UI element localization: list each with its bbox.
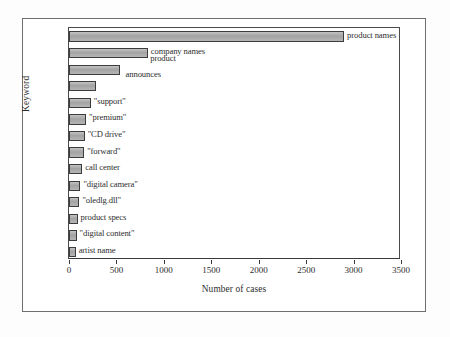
- bar-label: announces: [126, 69, 161, 80]
- plot-area: product namescompany namesproductannounc…: [68, 27, 400, 259]
- bar-label: "oledlg.dll": [82, 195, 121, 206]
- bar-label: product specs: [81, 212, 127, 223]
- bar-row: "forward": [69, 144, 401, 162]
- bar-row: product specs: [69, 210, 401, 228]
- bar: [69, 31, 344, 41]
- bar-label: artist name: [79, 245, 116, 256]
- x-tick: [69, 260, 70, 264]
- x-tick: [259, 260, 260, 264]
- bar-row: "CD drive": [69, 127, 401, 145]
- bar-label: "support": [94, 96, 126, 107]
- bar-row: "support": [69, 94, 401, 112]
- bar-chart-figure: product namescompany namesproductannounc…: [0, 0, 450, 337]
- x-axis-title: Number of cases: [68, 284, 400, 294]
- x-tick-label: 2500: [297, 265, 315, 275]
- x-tick: [211, 260, 212, 264]
- bar: [69, 247, 76, 257]
- x-tick-label: 3000: [345, 265, 363, 275]
- bar-row: product names: [69, 28, 401, 46]
- x-tick-label: 1500: [202, 265, 220, 275]
- x-tick-label: 1000: [155, 265, 173, 275]
- bar-row: "digital content": [69, 227, 401, 245]
- bar-label: product names: [347, 30, 396, 41]
- bar: [69, 197, 79, 207]
- bar: [69, 131, 85, 141]
- x-tick-label: 2000: [250, 265, 268, 275]
- bar-label: call center: [85, 162, 119, 173]
- bar: [69, 230, 77, 240]
- bar-label: "CD drive": [88, 129, 126, 140]
- x-tick: [116, 260, 117, 264]
- bar-row: "premium": [69, 111, 401, 129]
- y-axis-title: Keyword: [21, 76, 31, 112]
- bar: [69, 81, 96, 91]
- bar-label: "digital camera": [83, 179, 137, 190]
- bar-label: product: [150, 53, 176, 64]
- x-tick-label: 500: [110, 265, 124, 275]
- bar: [69, 214, 78, 224]
- bar: [69, 181, 80, 191]
- bar-row: artist name: [69, 243, 401, 261]
- x-tick: [401, 260, 402, 264]
- x-tick-label: 0: [67, 265, 72, 275]
- bar-row: call center: [69, 161, 401, 179]
- x-tick-label: 3500: [392, 265, 410, 275]
- bar: [69, 48, 148, 58]
- bar: [69, 65, 120, 75]
- bar-row: announces: [69, 78, 401, 96]
- bar-label: "forward": [87, 146, 120, 157]
- bar: [69, 147, 84, 157]
- bar-row: company names: [69, 45, 401, 63]
- x-tick: [164, 260, 165, 264]
- x-tick: [306, 260, 307, 264]
- bar: [69, 98, 91, 108]
- bar: [69, 164, 82, 174]
- bar-row: "digital camera": [69, 177, 401, 195]
- bar-label: "premium": [89, 112, 126, 123]
- bar-row: "oledlg.dll": [69, 194, 401, 212]
- bar: [69, 114, 86, 124]
- bar-row: product: [69, 61, 401, 79]
- x-tick: [354, 260, 355, 264]
- bar-label: "digital content": [80, 228, 135, 239]
